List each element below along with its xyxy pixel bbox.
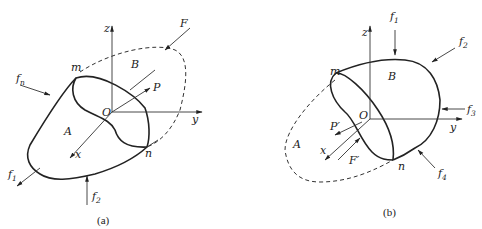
region-a-label: A [292,138,301,151]
f2-force-arrow [432,48,455,62]
force-f2-label: f2 [91,190,101,205]
panel-a: z y x O A B m n F P fn f1 f2 (a) [7,17,202,227]
point-m-label: m [71,61,81,74]
force-f4-label: f4 [437,167,447,182]
force-f-prime-label: F′ [348,154,360,167]
origin-label: O [359,109,368,122]
free-body-diagram: z y x O A B m n F P fn f1 f2 (a) [0,0,482,229]
f4-force-arrow [418,150,435,168]
force-fn-label: fn [15,72,25,87]
force-f2-label: f2 [458,35,468,50]
z-axis-label: z [361,26,368,39]
force-f3-label: f3 [466,103,476,118]
y-axis-label: y [449,121,457,134]
f-force-line [130,70,155,90]
x-axis-label: x [320,144,327,157]
x-axis-label: x [75,148,82,161]
force-f1-label: f1 [389,10,399,25]
f1-force-arrow [17,168,40,186]
point-m-label: m [330,65,340,78]
force-f1-label: f1 [7,168,17,183]
f-force-arrow [165,28,190,50]
force-p-label: P [152,81,161,94]
region-a-label: A [63,125,72,138]
point-n-label: n [398,160,405,173]
force-p-prime-label: P′ [329,120,340,133]
region-b-label: B [130,58,139,71]
caption-b: (b) [383,206,396,219]
z-axis-label: z [103,22,110,35]
y-axis-label: y [191,113,199,126]
point-n-label: n [145,147,152,160]
caption-a: (a) [97,214,110,227]
origin-label: O [102,106,111,119]
region-a-outline [28,76,149,179]
panel-b: z y x O A B m n P′ F′ f1 f2 f3 f4 (b) [285,10,476,219]
force-f-label: F [179,17,188,30]
region-b-label: B [387,70,396,83]
